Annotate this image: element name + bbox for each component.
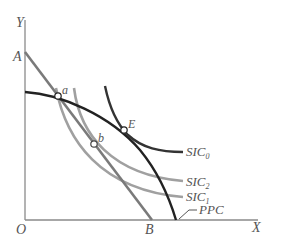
point-e xyxy=(121,127,127,133)
line-ab xyxy=(25,52,152,220)
ppc-label: PPC xyxy=(198,202,224,217)
intercept-b-label: B xyxy=(145,222,154,237)
ppc-leader-arrow xyxy=(179,210,197,219)
ppc-curve xyxy=(25,92,176,220)
point-b-label: b xyxy=(98,131,104,145)
point-e-label: E xyxy=(127,117,136,131)
sic0-curve xyxy=(105,86,183,152)
point-a-label: a xyxy=(62,83,68,97)
sic0-label: SIC0 xyxy=(186,144,210,161)
diagram: Y A O B X a b E SIC0 SIC2 SIC1 PPC xyxy=(0,0,283,246)
point-b xyxy=(91,141,97,147)
intercept-a-label: A xyxy=(12,49,22,64)
point-a xyxy=(55,93,61,99)
x-axis-label: X xyxy=(251,220,261,235)
origin-label: O xyxy=(16,222,26,237)
